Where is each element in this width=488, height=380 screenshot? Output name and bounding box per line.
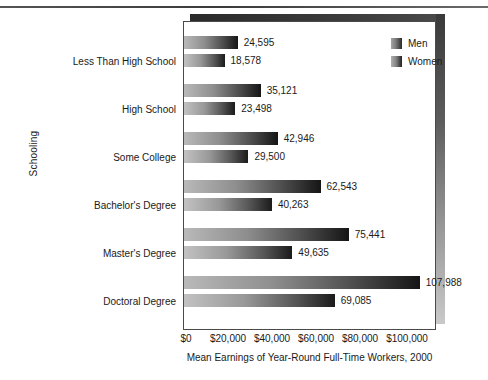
- bar-men-doctoral-degree: [184, 276, 420, 289]
- category-label-less-than-high-school: Less Than High School: [28, 56, 176, 67]
- bar-women-masters-degree: [184, 246, 292, 259]
- legend-swatch-women-icon: [391, 56, 402, 67]
- bar-value-women-some-college: 29,500: [254, 150, 285, 163]
- x-tick-100000: $100,000: [386, 333, 428, 344]
- bar-men-less-than-high-school: [184, 36, 238, 49]
- bar-men-bachelors-degree: [184, 180, 321, 193]
- bar-men-masters-degree: [184, 228, 349, 241]
- top-divider-rule: [0, 6, 488, 8]
- bar-value-women-high-school: 23,498: [241, 102, 272, 115]
- bar-men-high-school: [184, 84, 261, 97]
- category-label-masters-degree: Master's Degree: [28, 248, 176, 259]
- bar-value-women-doctoral-degree: 69,085: [341, 294, 372, 307]
- bar-women-less-than-high-school: [184, 54, 225, 67]
- bar-women-bachelors-degree: [184, 198, 272, 211]
- legend-label-men: Men: [408, 38, 427, 49]
- category-label-high-school: High School: [28, 104, 176, 115]
- x-tick-60000: $60,000: [298, 333, 334, 344]
- bar-value-men-doctoral-degree: 107,988: [426, 276, 462, 289]
- legend-label-women: Women: [408, 56, 442, 67]
- category-label-some-college: Some College: [28, 152, 176, 163]
- x-axis-tick-labels: $0 $20,000 $40,000 $60,000 $80,000 $100,…: [0, 333, 488, 347]
- bar-women-doctoral-degree: [184, 294, 335, 307]
- legend: Men Women: [391, 38, 461, 74]
- x-tick-0: $0: [180, 333, 191, 344]
- category-label-doctoral-degree: Doctoral Degree: [28, 296, 176, 307]
- bar-men-some-college: [184, 132, 278, 145]
- bar-value-women-masters-degree: 49,635: [298, 246, 329, 259]
- x-tick-20000: $20,000: [210, 333, 246, 344]
- bar-value-men-high-school: 35,121: [267, 84, 298, 97]
- bar-women-high-school: [184, 102, 235, 115]
- bar-value-men-masters-degree: 75,441: [355, 228, 386, 241]
- legend-swatch-men-icon: [391, 38, 402, 49]
- bar-women-some-college: [184, 150, 248, 163]
- bar-value-men-less-than-high-school: 24,595: [244, 36, 275, 49]
- bar-value-women-less-than-high-school: 18,578: [231, 54, 262, 67]
- category-label-bachelors-degree: Bachelor's Degree: [28, 200, 176, 211]
- category-label-list: Less Than High School High School Some C…: [28, 24, 176, 324]
- bar-value-women-bachelors-degree: 40,263: [278, 198, 309, 211]
- legend-item-men: Men: [391, 38, 461, 49]
- x-tick-80000: $80,000: [342, 333, 378, 344]
- x-axis-caption: Mean Earnings of Year-Round Full-Time Wo…: [183, 352, 436, 363]
- bar-value-men-bachelors-degree: 62,543: [327, 180, 358, 193]
- bar-value-men-some-college: 42,946: [284, 132, 315, 145]
- x-tick-40000: $40,000: [254, 333, 290, 344]
- legend-item-women: Women: [391, 56, 461, 67]
